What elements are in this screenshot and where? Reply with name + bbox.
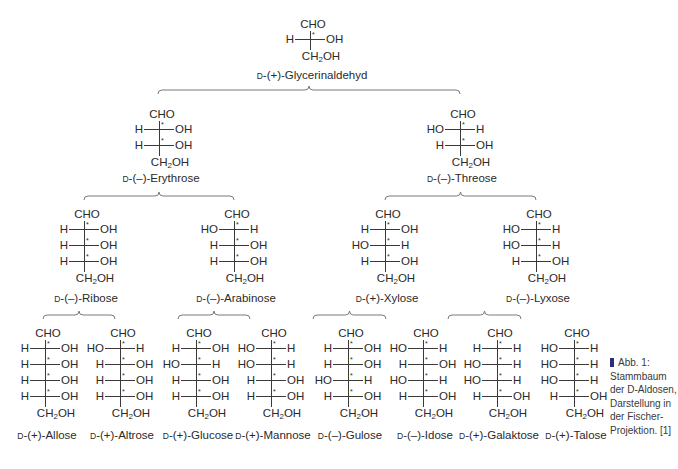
left-substituent: H — [172, 373, 180, 387]
left-substituent: HO — [163, 357, 180, 371]
bond-line — [370, 245, 400, 246]
right-substituent: H — [590, 357, 598, 371]
right-substituent: H — [513, 373, 521, 387]
stereo-marker: * — [47, 372, 50, 380]
oh-text: OH — [473, 156, 490, 168]
name-mannose: D-(+)-Mannose — [235, 428, 310, 443]
bond-line — [333, 348, 363, 349]
right-substituent: H — [552, 222, 560, 236]
bond-line — [256, 380, 286, 381]
left-substituent: H — [324, 357, 332, 371]
stereo-marker: * — [198, 340, 201, 348]
right-substituent: OH — [364, 357, 381, 371]
left-substituent: H — [324, 389, 332, 403]
stereo-marker: * — [273, 356, 276, 364]
bond-line — [333, 396, 363, 397]
left-substituent: H — [135, 122, 143, 136]
left-substituent: H — [172, 389, 180, 403]
name-idose: D-(–)-Idose — [397, 428, 453, 443]
hydroxymethyl-group: CH2OH — [76, 272, 114, 288]
bond-line — [333, 380, 363, 381]
bond-line — [521, 261, 551, 262]
stereo-marker: * — [312, 31, 315, 39]
molecule-name: -(–)-Threose — [433, 172, 497, 184]
molecule-name: -(+)-Glycerinaldehyd — [263, 69, 368, 81]
molecule-name: -(–)-Idose — [403, 429, 453, 441]
right-substituent: OH — [401, 254, 418, 268]
right-substituent: OH — [100, 222, 117, 236]
aldehyde-group: CHO — [338, 327, 364, 340]
bond-line — [482, 348, 512, 349]
oh-text: OH — [133, 407, 150, 419]
right-substituent: H — [401, 238, 409, 252]
oh-text: OH — [323, 50, 340, 62]
ch-text: CH — [377, 272, 394, 284]
aldehyde-group: CHO — [35, 327, 61, 340]
ch-text: CH — [263, 407, 280, 419]
stereo-marker: * — [462, 137, 465, 145]
bond-line — [144, 145, 174, 146]
right-substituent: OH — [61, 357, 78, 371]
hydroxymethyl-group: CH2OH — [415, 407, 453, 423]
left-substituent: H — [21, 373, 29, 387]
bond-line — [559, 348, 589, 349]
ch-text: CH — [76, 272, 93, 284]
bond-line — [295, 39, 325, 40]
right-substituent: H — [136, 341, 144, 355]
stereo-marker: * — [122, 356, 125, 364]
molecule-name: -(+)-Xylose — [362, 292, 419, 304]
hydroxymethyl-group: CH2OH — [188, 407, 226, 423]
right-substituent: OH — [100, 254, 117, 268]
right-substituent: OH — [364, 389, 381, 403]
stereo-marker: * — [576, 372, 579, 380]
stereo-marker: * — [273, 372, 276, 380]
aldehyde-group: CHO — [149, 108, 175, 121]
bond-line — [559, 396, 589, 397]
hydroxymethyl-group: CH2OH — [377, 272, 415, 288]
stereo-marker: * — [236, 253, 239, 261]
left-substituent: H — [361, 222, 369, 236]
left-substituent: H — [324, 341, 332, 355]
caption-line-5: der Fischer- — [610, 410, 678, 424]
bond-line — [30, 396, 60, 397]
hydroxymethyl-group: CH2OH — [528, 272, 566, 288]
right-substituent: OH — [552, 254, 569, 268]
aldose-family-tree: CHOH*OHCH2OHD-(+)-GlycerinaldehydCHOH*OH… — [0, 0, 678, 469]
stereo-marker: * — [425, 340, 428, 348]
right-substituent: OH — [401, 222, 418, 236]
stereo-marker: * — [122, 340, 125, 348]
bond-line — [219, 261, 249, 262]
left-substituent: H — [247, 389, 255, 403]
molecule-name: -(–)-Gulose — [324, 429, 382, 441]
bond-line — [559, 364, 589, 365]
right-substituent: OH — [439, 389, 456, 403]
aldehyde-group: CHO — [74, 208, 100, 221]
stereo-marker: * — [350, 340, 353, 348]
left-substituent: H — [21, 341, 29, 355]
bond-line — [105, 364, 135, 365]
ch-text: CH — [302, 50, 319, 62]
right-substituent: OH — [513, 389, 530, 403]
right-substituent: OH — [326, 32, 343, 46]
name-xylose: D-(+)-Xylose — [356, 291, 419, 306]
right-substituent: H — [439, 373, 447, 387]
left-substituent: H — [436, 138, 444, 152]
left-substituent: H — [21, 389, 29, 403]
stereo-marker: * — [86, 221, 89, 229]
left-substituent: HO — [87, 341, 104, 355]
caption-marker-icon — [610, 358, 614, 367]
aldehyde-group: CHO — [375, 208, 401, 221]
right-substituent: H — [287, 341, 295, 355]
left-substituent: H — [21, 357, 29, 371]
name-gulose: D-(–)-Gulose — [318, 428, 382, 443]
stereo-marker: * — [538, 221, 541, 229]
ch-text: CH — [566, 407, 583, 419]
aldehyde-group: CHO — [186, 327, 212, 340]
oh-text: OH — [209, 407, 226, 419]
left-substituent: HO — [238, 357, 255, 371]
molecule-name: -(–)-Arabinose — [202, 292, 276, 304]
hydroxymethyl-group: CH2OH — [226, 272, 264, 288]
right-substituent: OH — [175, 122, 192, 136]
carbon-backbone-line — [460, 121, 461, 156]
right-substituent: OH — [476, 138, 493, 152]
